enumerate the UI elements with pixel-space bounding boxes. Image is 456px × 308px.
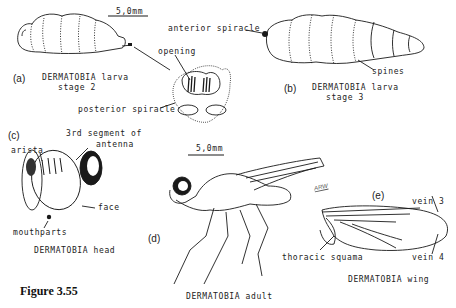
label-mouthparts: mouthparts [13,229,67,237]
panel-d-title: DERMATOBIA adult [186,293,273,301]
larva-stage3-drawing [246,15,424,70]
panel-tag-d: (d) [148,234,160,244]
larva-stage2-drawing [18,14,170,70]
label-spines: spines [372,68,405,76]
adult-fly-drawing [170,155,324,284]
panel-tag-b: (b) [284,84,296,94]
panel-b-title: DERMATOBIA larva [312,84,399,92]
head-drawing [22,145,102,228]
figure-drawings [0,0,456,308]
label-vein3: vein 3 [412,198,445,206]
figure-caption: Figure 3.55 [20,285,78,297]
scale-label-d: 5,0mm [196,145,223,153]
label-antenna-line1: 3rd segment of [66,130,142,138]
panel-b-subtitle: stage 3 [326,94,364,102]
panel-tag-e: (e) [372,191,384,201]
panel-a-subtitle: stage 2 [58,84,96,92]
label-opening: opening [158,48,196,56]
label-arista: arista [11,147,44,155]
label-face: face [98,204,120,212]
label-posterior-spiracle: posterior spiracle [78,106,176,114]
label-vein4: vein 4 [412,254,445,262]
scale-label-a: 5,0mm [116,8,143,16]
panel-c-title: DERMATOBIA head [34,247,115,255]
panel-tag-c: (c) [8,131,20,141]
label-antenna-line2: antenna [96,141,134,149]
panel-e-title: DERMATOBIA wing [348,276,429,284]
label-anterior-spiracle: anterior spiracle [168,25,260,33]
panel-tag-a: (a) [13,74,25,84]
label-thoracic-squama: thoracic squama [282,254,363,262]
panel-a-title: DERMATOBIA larva [42,74,129,82]
